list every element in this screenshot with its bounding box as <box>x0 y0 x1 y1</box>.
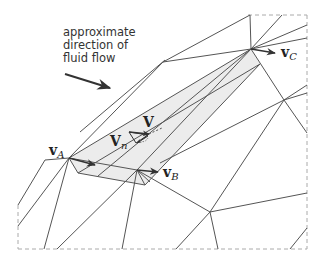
label-vC: vC <box>281 44 297 62</box>
flow-caption: approximate direction of fluid flow <box>63 26 173 65</box>
vC-arrow <box>251 49 275 53</box>
label-Vn: Vn <box>110 133 127 151</box>
flow-direction-arrow <box>65 74 110 88</box>
caption-line-3: fluid flow <box>63 52 173 65</box>
label-vA: vA <box>49 142 64 160</box>
label-vB: vB <box>163 164 179 182</box>
label-V: V <box>143 114 154 130</box>
